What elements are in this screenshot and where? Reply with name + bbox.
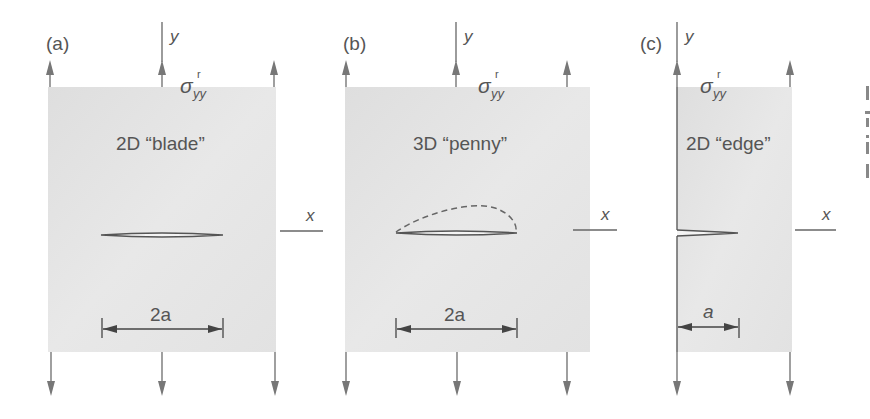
plate-c	[677, 87, 792, 352]
panel-title-c: 2D “edge”	[686, 133, 771, 154]
x-axis-label-c: x	[821, 205, 831, 224]
stress-sup-a: r	[197, 68, 201, 80]
crack-geometry-diagram: (a) y σ r yy 2D “blade” x 2a	[0, 0, 870, 419]
dimension-label-a: 2a	[150, 304, 172, 325]
stress-sup-b: r	[495, 68, 499, 80]
stress-sup-c: r	[717, 68, 721, 80]
stress-arrows-top-b	[342, 60, 571, 87]
stress-label-b: σ	[478, 74, 492, 97]
stress-sub-b: yy	[490, 86, 506, 101]
x-axis-label-a: x	[305, 206, 315, 225]
stress-label-a: σ	[180, 74, 194, 97]
crack-blade	[101, 233, 223, 237]
stress-arrows-bottom-b	[342, 352, 571, 396]
dimension-label-b: 2a	[444, 304, 466, 325]
y-axis-label-b: y	[463, 27, 474, 46]
panel-label-c: (c)	[640, 33, 662, 54]
clipped-caption-fragments	[865, 86, 870, 178]
y-axis-label-c: y	[684, 27, 695, 46]
stress-arrows-top-a	[46, 60, 278, 87]
panel-label-a: (a)	[46, 33, 69, 54]
stress-arrows-bottom-a	[47, 352, 279, 396]
plate-b	[345, 87, 590, 352]
stress-arrows-top-c	[673, 60, 794, 87]
stress-arrows-bottom-c	[673, 352, 794, 396]
y-axis-label-a: y	[169, 27, 180, 46]
dimension-label-c: a	[703, 301, 714, 322]
crack-penny	[396, 231, 517, 235]
panel-c: (c) y σ r yy 2D “edge” x a	[640, 22, 836, 396]
panel-title-b: 3D “penny”	[413, 133, 507, 154]
panel-a: (a) y σ r yy 2D “blade” x 2a	[46, 22, 323, 396]
panel-label-b: (b)	[343, 33, 366, 54]
stress-label-c: σ	[700, 74, 714, 97]
stress-sub-c: yy	[712, 86, 728, 101]
panel-b: (b) y σ r yy 3D “penny” x 2a	[342, 22, 617, 396]
panel-title-a: 2D “blade”	[116, 133, 205, 154]
x-axis-label-b: x	[600, 205, 610, 224]
stress-sub-a: yy	[192, 86, 208, 101]
